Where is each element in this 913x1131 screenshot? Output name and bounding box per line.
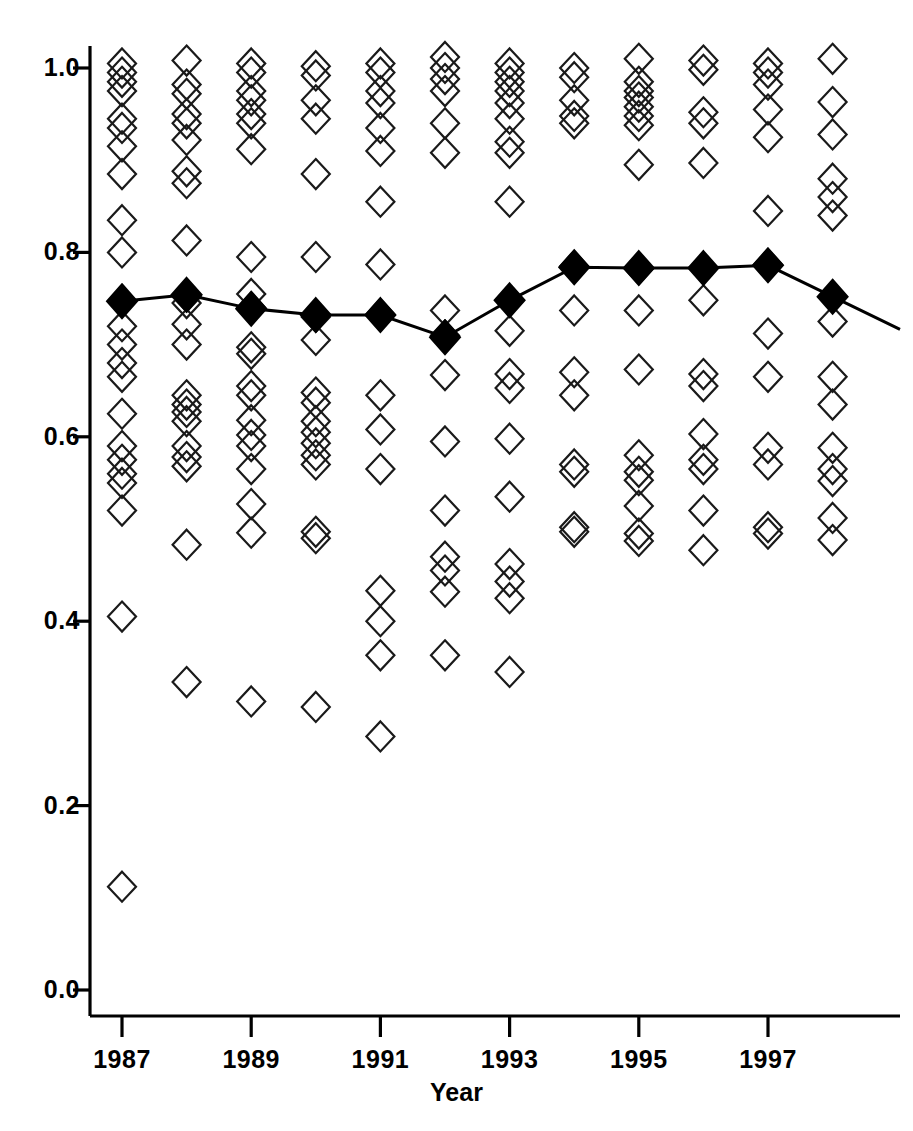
observation-diamond <box>689 359 717 389</box>
observation-diamond <box>173 168 201 198</box>
y-tick-label: 0.6 <box>18 422 80 451</box>
observation-diamond <box>302 242 330 272</box>
observation-diamond <box>689 285 717 315</box>
observation-diamond <box>366 414 394 444</box>
observation-diamond <box>108 48 136 78</box>
observation-diamond <box>689 46 717 76</box>
observation-diamond <box>173 330 201 360</box>
observation-diamond <box>560 357 588 387</box>
observation-diamond <box>431 108 459 138</box>
observation-diamond <box>302 51 330 81</box>
observation-diamond <box>496 67 524 97</box>
observation-diamond <box>754 196 782 226</box>
observation-diamond <box>431 360 459 390</box>
mean-diamond <box>818 280 848 314</box>
mean-diamond <box>753 248 783 282</box>
observation-diamond <box>819 466 847 496</box>
observation-diamond <box>431 42 459 72</box>
observation-diamond <box>302 159 330 189</box>
observation-diamond <box>819 454 847 484</box>
mean-diamond <box>301 298 331 332</box>
observation-diamond <box>237 48 265 78</box>
observation-diamond <box>496 58 524 88</box>
observation-diamond <box>689 148 717 178</box>
observation-diamond <box>496 48 524 78</box>
observation-diamond <box>237 518 265 548</box>
mean-diamond <box>430 320 460 354</box>
observation-diamond <box>366 58 394 88</box>
observation-diamond <box>108 205 136 235</box>
observation-diamond <box>237 489 265 519</box>
mean-diamond <box>365 298 395 332</box>
observation-diamond <box>108 67 136 97</box>
observation-diamond <box>173 530 201 560</box>
observation-diamond <box>108 113 136 143</box>
observation-diamond <box>108 104 136 134</box>
observation-diamond <box>108 330 136 360</box>
observation-diamond <box>173 156 201 186</box>
observation-diamond <box>496 127 524 157</box>
observation-diamond <box>366 721 394 751</box>
observation-diamond <box>689 496 717 526</box>
observation-diamond <box>366 454 394 484</box>
observation-diamond <box>496 316 524 346</box>
observation-diamond <box>237 242 265 272</box>
observation-diamond <box>819 201 847 231</box>
observation-diamond <box>689 535 717 565</box>
observation-diamond <box>173 451 201 481</box>
observation-diamond <box>819 164 847 194</box>
observation-diamond <box>754 319 782 349</box>
observation-diamond <box>431 76 459 106</box>
observation-diamond <box>237 371 265 401</box>
observation-diamond <box>496 187 524 217</box>
mean-diamond <box>624 251 654 285</box>
observation-diamond <box>302 428 330 458</box>
observation-diamond <box>689 108 717 138</box>
observation-diamond <box>431 577 459 607</box>
x-tick-label: 1997 <box>723 1045 813 1074</box>
observation-diamond <box>173 309 201 339</box>
observation-diamond <box>366 380 394 410</box>
observation-diamond <box>173 667 201 697</box>
observation-diamond <box>302 692 330 722</box>
x-tick-label: 1995 <box>594 1045 684 1074</box>
observation-diamond <box>366 249 394 279</box>
y-tick-label: 0.4 <box>18 606 80 635</box>
observation-diamond <box>819 182 847 212</box>
observation-diamond <box>819 87 847 117</box>
observation-diamond <box>237 454 265 484</box>
observation-diamond <box>431 64 459 94</box>
observation-diamond <box>754 48 782 78</box>
plot-area <box>0 0 913 1131</box>
observation-diamond <box>237 58 265 88</box>
observation-diamond <box>819 390 847 420</box>
y-tick-label: 0.8 <box>18 237 80 266</box>
observation-diamond <box>302 440 330 470</box>
observation-diamond <box>431 640 459 670</box>
observation-diamond <box>431 426 459 456</box>
observation-diamond <box>689 55 717 85</box>
observation-diamond <box>108 496 136 526</box>
observation-diamond <box>302 378 330 408</box>
observation-diamond <box>754 58 782 88</box>
y-tick-label: 0.0 <box>18 975 80 1004</box>
observation-diamond <box>819 362 847 392</box>
observation-diamond <box>560 62 588 92</box>
observation-diamond <box>366 136 394 166</box>
observation-diamond <box>302 417 330 447</box>
mean-diamond <box>495 283 525 317</box>
observation-points <box>108 42 847 902</box>
observation-diamond <box>560 53 588 83</box>
observation-diamond <box>689 97 717 127</box>
observation-diamond <box>173 225 201 255</box>
observation-diamond <box>625 295 653 325</box>
observation-diamond <box>819 503 847 533</box>
y-tick-label: 1.0 <box>18 53 80 82</box>
observation-diamond <box>366 187 394 217</box>
observation-diamond <box>625 110 653 140</box>
observation-diamond <box>108 76 136 106</box>
observation-diamond <box>237 686 265 716</box>
observation-diamond <box>819 119 847 149</box>
observation-diamond <box>560 295 588 325</box>
x-tick-label: 1989 <box>206 1045 296 1074</box>
